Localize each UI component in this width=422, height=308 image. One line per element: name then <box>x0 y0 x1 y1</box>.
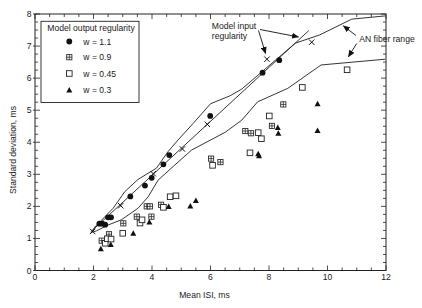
filled-triangle-marker-icon <box>130 230 136 236</box>
y-tick-label: 4 <box>27 137 32 147</box>
series-w-0-45 <box>102 67 349 246</box>
y-tick-label: 0 <box>27 266 32 276</box>
open-square-marker-icon <box>161 205 167 211</box>
filled-circle-marker-icon <box>166 152 172 158</box>
plus-square-marker-icon <box>121 221 126 226</box>
x-axis-label: Mean ISI, ms <box>179 290 230 300</box>
x-tick-label: 12 <box>381 272 391 282</box>
filled-triangle-marker-icon <box>146 219 152 225</box>
plus-square-marker-icon <box>147 204 152 209</box>
open-square-marker-icon <box>210 163 216 169</box>
open-square-marker-icon <box>259 136 265 142</box>
y-tick-label: 8 <box>27 9 32 19</box>
filled-triangle-marker-icon <box>315 101 321 107</box>
x-cross-marker-icon <box>264 57 269 62</box>
legend: Model output regularity w = 1.1 w = 0.9 … <box>41 21 139 102</box>
filled-circle-marker-icon <box>127 194 133 200</box>
annotation-text-line: Model input <box>212 21 257 31</box>
open-square-marker-icon <box>120 231 126 237</box>
open-square-glyph <box>67 71 73 77</box>
annotation-model-input-regularity: Model input regularity <box>212 21 299 54</box>
open-square-marker-icon <box>266 113 272 119</box>
y-tick-label: 3 <box>27 169 32 179</box>
arrow-icon <box>348 44 356 57</box>
filled-triangle-marker-icon <box>275 130 281 136</box>
scatter-chart: 024681012 012345678 Model output regular… <box>0 0 422 308</box>
arrow-icon <box>259 31 266 54</box>
series-w-0-3 <box>98 101 321 251</box>
plus-square-marker-icon <box>134 214 139 219</box>
plus-square-marker-icon <box>208 156 213 161</box>
annotation-an-fiber-range: AN fiber range <box>343 26 415 57</box>
filled-circle-marker-icon <box>276 57 282 63</box>
plus-square-glyph <box>67 55 72 60</box>
filled-circle-marker-icon <box>66 39 72 45</box>
open-square-marker-icon <box>108 236 114 242</box>
arrow-icon <box>343 26 356 36</box>
y-axis-tick-labels: 012345678 <box>27 9 32 276</box>
filled-circle-marker-icon <box>260 70 266 76</box>
series-w-0-9 <box>99 102 286 243</box>
filled-circle-marker-icon <box>149 175 155 181</box>
x-cross-marker-icon <box>309 40 314 45</box>
legend-label: w = 0.3 <box>82 85 111 95</box>
open-square-marker-icon <box>167 194 173 200</box>
legend-title: Model output regularity <box>47 23 135 33</box>
open-square-marker-icon <box>255 130 261 136</box>
x-axis-tick-labels: 024681012 <box>33 272 391 282</box>
filled-triangle-marker-icon <box>315 127 321 133</box>
filled-triangle-marker-icon <box>193 198 199 204</box>
x-tick-label: 8 <box>267 272 272 282</box>
y-tick-label: 7 <box>27 41 32 51</box>
arrow-icon <box>260 30 299 38</box>
x-tick-label: 4 <box>150 272 155 282</box>
open-square-marker-icon <box>139 217 145 223</box>
x-tick-label: 0 <box>33 272 38 282</box>
annotation-text: AN fiber range <box>359 34 415 44</box>
legend-label: w = 0.45 <box>82 69 116 79</box>
plus-square-marker-icon <box>218 160 223 165</box>
open-square-marker-icon <box>344 67 350 73</box>
y-tick-label: 1 <box>27 233 32 243</box>
legend-label: w = 1.1 <box>82 37 111 47</box>
plus-square-marker-icon <box>67 55 72 60</box>
x-tick-label: 6 <box>208 272 213 282</box>
y-tick-label: 6 <box>27 73 32 83</box>
x-cross-marker-icon <box>205 122 210 127</box>
plus-square-marker-icon <box>269 123 274 128</box>
plus-square-marker-icon <box>149 214 154 219</box>
filled-triangle-marker-icon <box>108 242 114 248</box>
x-tick-label: 2 <box>91 272 96 282</box>
open-square-marker-icon <box>300 85 306 91</box>
annotation-text-line: regularity <box>212 31 248 41</box>
plus-square-marker-icon <box>281 102 286 107</box>
filled-circle-glyph <box>66 39 72 45</box>
filled-triangle-marker-icon <box>187 203 193 209</box>
legend-label: w = 0.9 <box>82 52 111 62</box>
filled-circle-marker-icon <box>161 161 167 167</box>
filled-triangle-marker-icon <box>98 246 104 252</box>
y-axis-label: Standard deviation, ms <box>8 106 18 194</box>
filled-circle-marker-icon <box>102 222 108 228</box>
open-square-marker-icon <box>247 150 253 156</box>
open-square-marker-icon <box>173 193 179 199</box>
open-square-marker-icon <box>67 71 73 77</box>
filled-circle-marker-icon <box>108 214 114 220</box>
filled-circle-marker-icon <box>142 183 148 189</box>
filled-triangle-marker-icon <box>275 125 281 131</box>
filled-circle-marker-icon <box>207 113 213 119</box>
x-tick-label: 10 <box>323 272 333 282</box>
y-tick-label: 5 <box>27 105 32 115</box>
plus-square-marker-icon <box>243 128 248 133</box>
y-tick-label: 2 <box>27 201 32 211</box>
plus-square-marker-icon <box>248 131 253 136</box>
